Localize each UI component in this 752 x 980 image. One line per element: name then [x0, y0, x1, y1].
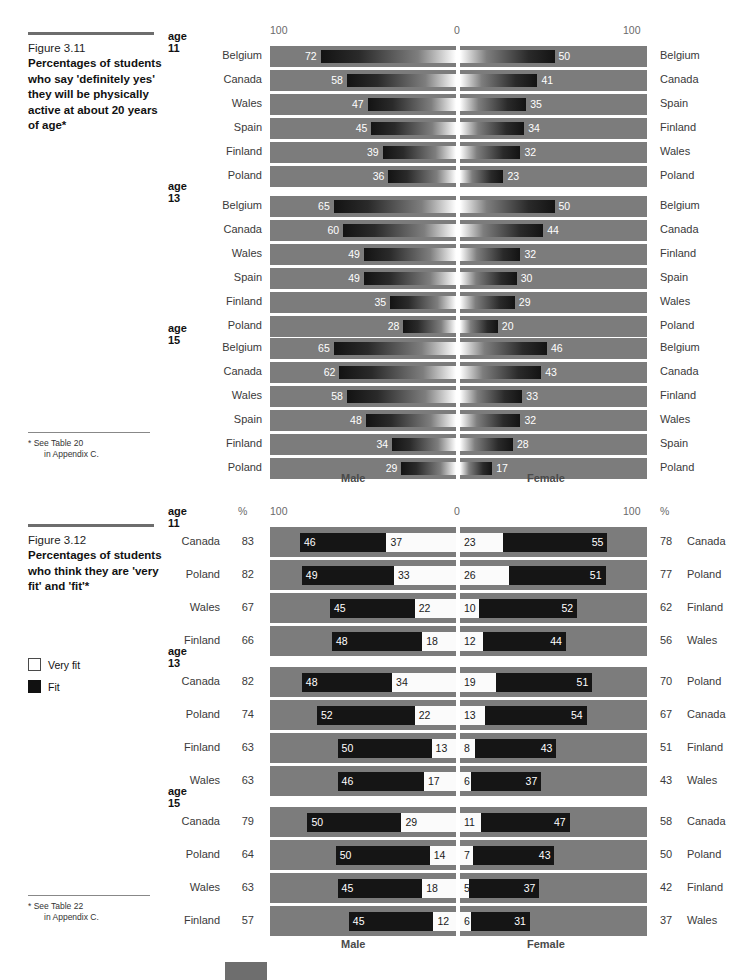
fig311-category-female: Poland — [660, 169, 752, 181]
fig311-value-male: 28 — [379, 320, 399, 333]
fig311-category-male: Canada — [158, 365, 262, 377]
fig311-category-male: Belgium — [158, 49, 262, 61]
fig311-category-female: Wales — [660, 295, 752, 307]
fig312-category-male: Poland — [110, 848, 220, 860]
fig311-bar-female — [460, 200, 555, 213]
fig311-female-label: Female — [527, 472, 565, 484]
fig311-category-male: Poland — [158, 461, 262, 473]
fig311-bar-male — [343, 224, 456, 237]
fig311-value-female: 17 — [496, 462, 518, 475]
fig312-bar-male: 4933 — [302, 566, 456, 585]
fig311-value-female: 32 — [524, 248, 546, 261]
fig311-bar-female — [460, 50, 555, 63]
figure-311-title: Percentages of students who say 'definit… — [28, 56, 168, 134]
fig311-axis-right-tick: 100 — [623, 24, 641, 36]
fig312-bar-female: 1951 — [460, 673, 592, 692]
fig312-category-male: Canada — [110, 675, 220, 687]
fig312-age-label-2: age 15 — [168, 785, 187, 809]
fig312-value-fit-male: 45 — [353, 912, 365, 931]
fig312-value-veryfit-female: 26 — [464, 566, 476, 585]
fig312-value-fit-male: 45 — [334, 599, 346, 618]
fig312-value-veryfit-male: 18 — [426, 879, 438, 898]
fig312-value-veryfit-female: 11 — [464, 813, 475, 832]
fig312-total-male: 83 — [226, 535, 254, 547]
fig312-total-female: 62 — [660, 601, 684, 613]
fig311-bar-female — [460, 224, 543, 237]
fig312-bar-male: 4834 — [302, 673, 456, 692]
legend-swatch-fit-icon — [28, 680, 41, 693]
fig311-bar-male — [383, 146, 456, 159]
fig312-category-male: Poland — [110, 708, 220, 720]
fig312-value-fit-male: 46 — [304, 533, 316, 552]
fig312-category-female: Finland — [687, 881, 752, 893]
fig311-bar-female — [460, 438, 513, 451]
fig311-category-female: Spain — [660, 97, 752, 109]
fig312-value-veryfit-female: 23 — [464, 533, 476, 552]
fig312-total-female: 37 — [660, 914, 684, 926]
fig312-bar-male: 5013 — [338, 739, 456, 758]
fig311-bar-female — [460, 462, 492, 475]
fig312-male-label: Male — [341, 938, 365, 950]
fig312-category-male: Wales — [110, 881, 220, 893]
fig311-bar-male — [371, 122, 456, 135]
fig312-segment-fit-female: 54 — [485, 706, 587, 725]
fig312-value-veryfit-male: 12 — [437, 912, 449, 931]
fig311-bar-female — [460, 146, 520, 159]
fig312-total-female: 50 — [660, 848, 684, 860]
fig312-bar-female: 631 — [460, 912, 530, 931]
fig311-value-female: 30 — [521, 272, 543, 285]
fig312-value-veryfit-male: 14 — [434, 846, 446, 865]
fig312-segment-fit-male: 48 — [302, 673, 392, 692]
fig311-value-male: 65 — [310, 342, 330, 355]
fig312-value-fit-female: 54 — [571, 706, 583, 725]
fig311-category-male: Finland — [158, 295, 262, 307]
fig311-value-male: 49 — [340, 272, 360, 285]
fig311-category-female: Finland — [660, 247, 752, 259]
fig312-segment-fit-female: 37 — [471, 772, 541, 791]
fig312-value-veryfit-male: 17 — [428, 772, 440, 791]
fig311-category-female: Spain — [660, 437, 752, 449]
fig311-axis-left-tick: 100 — [270, 24, 288, 36]
fig311-bar-female — [460, 366, 541, 379]
legend-item-very-fit: Very fit — [28, 658, 80, 671]
fig312-segment-fit-male: 50 — [338, 739, 432, 758]
fig311-value-female: 41 — [541, 74, 563, 87]
fig312-segment-veryfit-female: 19 — [460, 673, 496, 692]
fig311-category-female: Canada — [660, 365, 752, 377]
fig311-value-male: 45 — [347, 122, 367, 135]
fig311-bar-male — [339, 366, 456, 379]
fig312-age-label-1: age 13 — [168, 645, 187, 669]
fig312-segment-veryfit-female: 12 — [460, 632, 483, 651]
fig312-category-male: Wales — [110, 774, 220, 786]
fig312-segment-fit-male: 46 — [338, 772, 424, 791]
fig312-value-veryfit-female: 6 — [464, 772, 470, 791]
fig312-category-male: Poland — [110, 568, 220, 580]
fig312-category-male: Wales — [110, 601, 220, 613]
fig312-total-female: 70 — [660, 675, 684, 687]
fig311-bar-female — [460, 414, 520, 427]
footnote-rule — [28, 432, 150, 433]
fig311-bar-male — [364, 272, 456, 285]
fig312-category-female: Canada — [687, 535, 752, 547]
fig311-category-male: Belgium — [158, 199, 262, 211]
fig311-centerline-2 — [456, 338, 460, 479]
fig312-segment-fit-female: 51 — [496, 673, 592, 692]
fig312-category-female: Wales — [687, 774, 752, 786]
fig312-segment-fit-male: 49 — [302, 566, 394, 585]
fig311-category-female: Poland — [660, 319, 752, 331]
fig311-bar-male — [334, 200, 456, 213]
fig312-segment-fit-female: 51 — [509, 566, 605, 585]
fig312-segment-veryfit-female: 26 — [460, 566, 509, 585]
fig311-category-female: Wales — [660, 413, 752, 425]
footnote-line2: in Appendix C. — [36, 449, 99, 459]
fig312-total-male: 79 — [226, 815, 254, 827]
fig311-category-male: Belgium — [158, 341, 262, 353]
fig312-value-fit-female: 44 — [550, 632, 562, 651]
fig312-value-veryfit-male: 33 — [398, 566, 410, 585]
caption-rule — [28, 32, 154, 35]
fig312-bar-male: 5029 — [307, 813, 456, 832]
fig312-total-female: 51 — [660, 741, 684, 753]
footnote-rule — [28, 895, 150, 896]
fig312-total-female: 77 — [660, 568, 684, 580]
fig312-segment-veryfit-female: 6 — [460, 772, 471, 791]
